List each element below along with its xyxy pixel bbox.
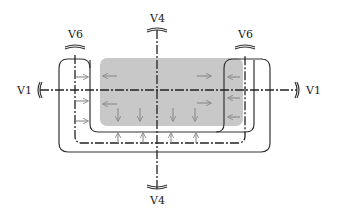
label-v1-right: V1 bbox=[305, 84, 321, 97]
label-v4-bottom: V4 bbox=[149, 194, 165, 207]
label-v1-left: V1 bbox=[16, 84, 32, 97]
gray-region bbox=[100, 58, 243, 126]
label-v6-right: V6 bbox=[237, 28, 253, 41]
v6-left-marker-icon bbox=[65, 45, 85, 49]
left-arm-arrows bbox=[76, 77, 88, 121]
label-v6-left: V6 bbox=[67, 28, 83, 41]
v6-right-marker-icon bbox=[235, 45, 255, 49]
label-v4-top: V4 bbox=[149, 12, 165, 25]
u-channel-section-diagram: V4 V4 V1 V1 V6 V6 bbox=[0, 0, 337, 217]
